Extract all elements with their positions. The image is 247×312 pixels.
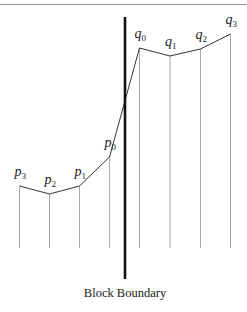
block-boundary-diagram: p3p2p1p0q0q1q2q3 Block Boundary — [0, 0, 247, 312]
sample-label-q1: q1 — [165, 34, 177, 51]
sample-label-q3: q3 — [226, 12, 238, 29]
sample-label-p1: p1 — [74, 164, 87, 181]
sample-label-q2: q2 — [196, 27, 208, 44]
sample-label-p3: p3 — [14, 164, 27, 181]
diagram-canvas: p3p2p1p0q0q1q2q3 Block Boundary — [0, 0, 247, 312]
sample-label-p2: p2 — [44, 172, 57, 189]
caption-block-boundary: Block Boundary — [84, 286, 167, 300]
sample-label-q0: q0 — [135, 26, 147, 43]
